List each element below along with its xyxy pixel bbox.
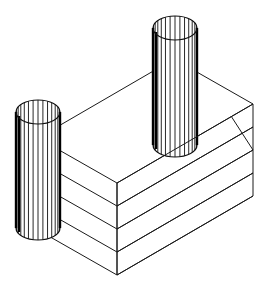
right-cylinder bbox=[153, 16, 197, 157]
layer-edge-right-front bbox=[117, 173, 253, 252]
wireframe-diagram bbox=[0, 0, 267, 289]
layer-edge-right-front bbox=[117, 150, 253, 229]
left-cylinder bbox=[16, 100, 60, 240]
layer-edge-right-front bbox=[117, 196, 253, 275]
